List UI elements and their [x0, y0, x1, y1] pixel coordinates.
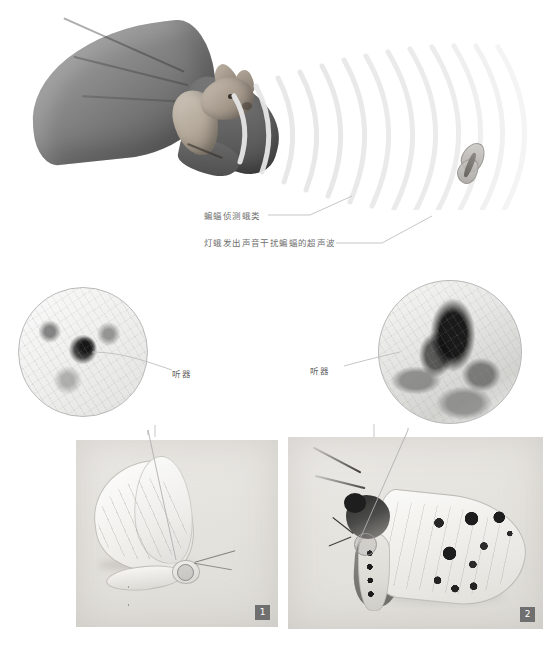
moth2-leg — [329, 537, 352, 547]
organ-label-right: 听器 — [310, 364, 329, 376]
annotation-moth-jam: 灯蛾发出声音干扰蝙蝠的超声波 — [204, 238, 336, 248]
moth2-head — [344, 493, 366, 513]
specimen-plate-1: 1 — [76, 440, 278, 627]
specimen-plate-2: 2 — [288, 437, 543, 629]
inset-circle-left — [18, 287, 148, 417]
moth2-wing-spots — [369, 487, 531, 610]
moth1-antenna — [195, 550, 236, 563]
target-moth-illustration — [452, 142, 498, 186]
plate-badge-2: 2 — [520, 607, 535, 622]
scientific-figure: 蝙蝠侦测蛾类 灯蛾发出声音干扰蝙蝠的超声波 听器 听器 1 — [0, 0, 554, 645]
tympanal-organ-inset-panel: 听器 听器 — [0, 262, 554, 437]
inset-circle-right — [378, 280, 522, 424]
specimen-plate-panel: 1 2 — [0, 437, 554, 645]
moth1-legs — [128, 586, 194, 606]
plate-badge-1: 1 — [255, 605, 270, 620]
organ-label-left: 听器 — [172, 367, 191, 379]
moth2-tympanal-organ-marker — [354, 533, 377, 556]
inset-texture — [379, 281, 521, 423]
inset-texture — [19, 288, 147, 416]
moth2-antenna — [313, 446, 362, 473]
moth2-antenna — [315, 475, 366, 490]
moth1-tympanal-organ-marker — [177, 564, 194, 581]
annotation-bat-detect: 蝙蝠侦测蛾类 — [204, 211, 260, 221]
bat-echolocation-panel: 蝙蝠侦测蛾类 灯蛾发出声音干扰蝙蝠的超声波 — [0, 0, 554, 262]
